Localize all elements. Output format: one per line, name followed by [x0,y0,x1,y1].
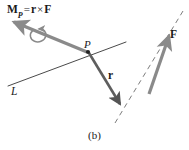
force-vector-F-label: F [170,29,177,41]
figure-container: MP=r×F P L r F (b) [0,0,189,150]
moment-vector-arrow [14,22,87,52]
moment-symbol: M [7,3,18,15]
moment-eq-f: F [44,3,51,15]
moment-subscript: P [18,11,23,20]
point-P-label: P [84,39,91,50]
position-vector-r-arrow [89,53,120,104]
equals-sign: = [23,3,31,15]
moment-equation-label: MP=r×F [7,4,51,18]
point-P-marker [86,50,90,54]
figure-caption: (b) [0,130,189,141]
position-vector-r-label: r [108,70,113,82]
vector-diagram-canvas [0,0,189,150]
force-vector-F-arrow [149,36,169,94]
line-L-label: L [11,86,17,98]
